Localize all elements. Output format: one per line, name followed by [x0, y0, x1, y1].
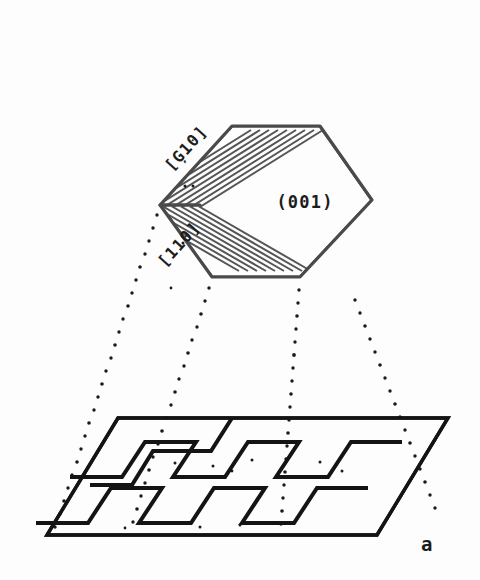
crystal-projection-diagram: e⁻ beam [100]	[0, 0, 480, 580]
crystal-face-label: (001)	[276, 192, 333, 212]
panel-letter: a	[421, 533, 432, 555]
figure-root: e⁻ beam [100]	[0, 0, 480, 580]
